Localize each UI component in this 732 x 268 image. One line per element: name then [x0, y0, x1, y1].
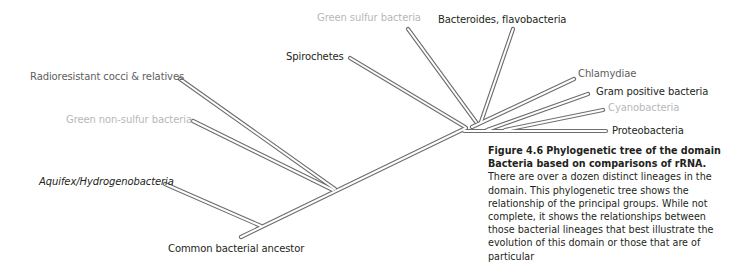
label-aquifex: Aquifex/Hydrogenobacteria — [39, 176, 174, 188]
label-radioresistant: Radioresistant cocci & relatives — [30, 71, 184, 83]
label-chlamydiae: Chlamydiae — [578, 68, 636, 80]
label-root-common-ancestor: Common bacterial ancestor — [168, 243, 304, 255]
figure-number: Figure 4.6 — [488, 145, 543, 156]
label-cyanobacteria: Cyanobacteria — [608, 102, 679, 114]
figure-caption: Figure 4.6 Phylogenetic tree of the doma… — [488, 144, 732, 263]
label-spirochetes: Spirochetes — [286, 51, 344, 63]
figure-body: There are over a dozen distinct lineages… — [488, 171, 713, 261]
label-gram-positive: Gram positive bacteria — [596, 86, 708, 98]
label-green-sulfur: Green sulfur bacteria — [317, 12, 421, 24]
label-bacteroides: Bacteroides, flavobacteria — [438, 14, 566, 26]
label-green-non-sulfur: Green non-sulfur bacteria — [66, 114, 192, 126]
label-proteobacteria: Proteobacteria — [612, 125, 684, 137]
